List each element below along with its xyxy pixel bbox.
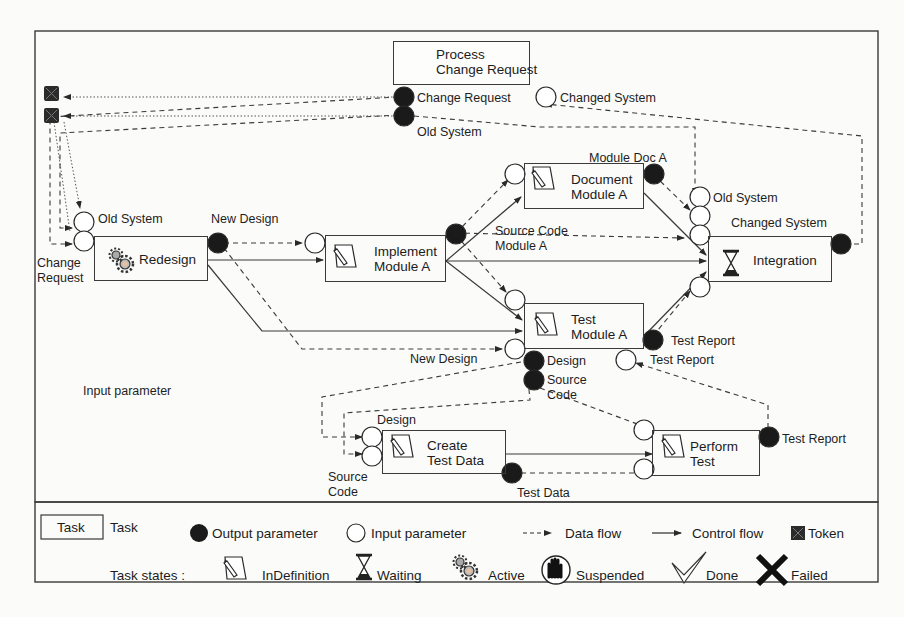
param-label: Source Code	[495, 224, 568, 238]
task-integration[interactable]: Integration	[708, 236, 832, 282]
task-perform-test[interactable]: Perform Test	[652, 430, 760, 476]
legend-state-active: Active	[488, 568, 525, 583]
task-name: Perform	[690, 439, 738, 454]
task-name: Module A	[571, 327, 627, 342]
task-redesign[interactable]: Redesign	[94, 236, 208, 281]
task-name: Test Data	[427, 453, 484, 468]
param-label: Changed System	[560, 91, 656, 105]
param-label: Test Report	[650, 353, 714, 367]
pencil-document-icon	[224, 557, 246, 579]
param-label: Source	[328, 470, 368, 484]
token-icon	[44, 86, 59, 123]
task-test-module-a[interactable]: Test Module A	[524, 303, 644, 349]
task-name: Integration	[753, 253, 817, 268]
x-cross-icon	[758, 556, 786, 584]
legend-state-failed: Failed	[791, 568, 828, 583]
param-label: Test Report	[671, 334, 735, 348]
param-label: Source	[547, 373, 587, 387]
task-name: Process	[436, 47, 485, 62]
task-name: Module A	[374, 259, 430, 274]
legend-state-indefinition: InDefinition	[262, 568, 330, 583]
param-label: Old System	[713, 191, 778, 205]
legend-output-parameter: Output parameter	[212, 526, 318, 541]
task-name: Create	[427, 438, 468, 453]
task-name: Test	[690, 454, 715, 469]
hourglass-icon	[356, 555, 372, 579]
checkmark-icon	[672, 552, 706, 583]
task-implement-module-a[interactable]: Implement Module A	[325, 235, 446, 282]
task-name: Change Request	[436, 62, 537, 77]
legend-task: Task	[110, 520, 138, 535]
param-label: New Design	[211, 212, 278, 226]
param-label: New Design	[410, 352, 477, 366]
param-label: Old System	[417, 125, 482, 139]
param-label: Test Report	[782, 432, 846, 446]
legend-state-suspended: Suspended	[576, 568, 644, 583]
param-label: Code	[328, 485, 358, 499]
legend-control-flow: Control flow	[692, 526, 763, 541]
param-label: Test Data	[517, 486, 570, 500]
param-label: Code	[547, 388, 577, 402]
floating-label-input-parameter: Input parameter	[83, 384, 171, 398]
task-name: Redesign	[139, 252, 196, 267]
param-label: Old System	[98, 212, 163, 226]
gears-icon	[454, 556, 478, 580]
param-label: Design	[377, 413, 416, 427]
param-label: Change Request	[417, 91, 511, 105]
task-name: Implement	[374, 244, 437, 259]
param-label: Request	[37, 271, 84, 285]
task-name: Test	[571, 312, 596, 327]
task-process-change-request[interactable]: Process Change Request	[393, 41, 530, 85]
param-label: Module Doc A	[589, 151, 667, 165]
legend-data-flow: Data flow	[565, 526, 621, 541]
legend-task-states-label: Task states :	[110, 568, 185, 583]
legend-task-box-label: Task	[57, 520, 85, 535]
task-name: Document	[571, 172, 633, 187]
param-label: Changed System	[731, 216, 827, 230]
task-create-test-data[interactable]: Create Test Data	[382, 430, 506, 474]
param-label: Module A	[495, 239, 547, 253]
task-document-module-a[interactable]: Document Module A	[524, 163, 644, 209]
legend-state-done: Done	[706, 568, 738, 583]
hand-stop-icon	[542, 556, 570, 584]
legend-state-waiting: Waiting	[377, 568, 422, 583]
param-label: Change	[37, 256, 81, 270]
task-name: Module A	[571, 187, 627, 202]
legend-token: Token	[808, 526, 844, 541]
param-label: Design	[547, 354, 586, 368]
legend-input-parameter: Input parameter	[371, 526, 466, 541]
